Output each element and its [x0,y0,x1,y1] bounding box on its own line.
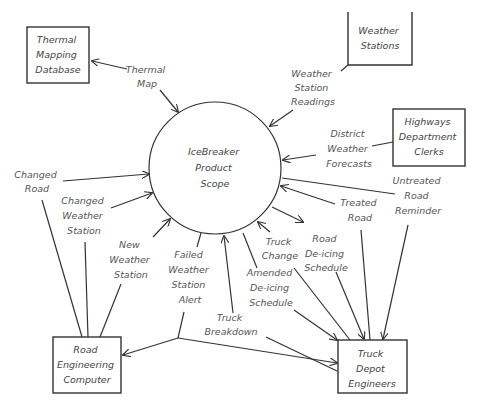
svg-text:Changed Road: Changed Road [14,169,59,194]
entity-thermal-mapping-database[interactable]: Thermal Mapping Database [27,27,89,83]
entity-weather-stations[interactable]: Weather Stations [348,12,412,65]
svg-text:Road De-icing Sche: Road De-icing Schedule [304,233,348,273]
svg-text:Failed Weather Sta: Failed Weather Station Alert [168,249,212,305]
svg-text:Thermal Mapping Da: Thermal Mapping Database [35,34,80,75]
flow-district-weather-forecasts[interactable]: District Weather Forecasts [283,128,393,169]
svg-text:Amended De-icing S: Amended De-icing Schedule [246,267,296,308]
svg-text:New Weather Statio: New Weather Station [109,239,153,280]
context-diagram: IceBreaker Product Scope Thermal Mapping… [0,0,479,406]
flow-weather-station-readings[interactable]: Weather Station Readings [270,65,348,126]
svg-text:Untreated Road Rem: Untreated Road Reminder [393,175,444,216]
svg-text:Truck Change: Truck Change [262,236,299,261]
product-scope[interactable]: IceBreaker Product Scope [149,102,281,234]
svg-text:Treated Road: Treated Road [340,197,379,223]
svg-text:Changed Weather St: Changed Weather Station [61,195,106,236]
svg-text:Truck Breakdown: Truck Breakdown [204,312,257,337]
flow-new-weather-station[interactable]: New Weather Station [100,219,170,337]
entity-road-engineering-computer[interactable]: Road Engineering Computer [53,337,121,393]
svg-text:District Weather F: District Weather Forecasts [326,128,372,169]
entity-truck-depot-engineers[interactable]: Truck Depot Engineers [338,340,407,393]
entity-highways-department-clerks[interactable]: Highways Department Clerks [393,109,465,166]
flow-changed-weather-station[interactable]: Changed Weather Station [61,193,152,337]
flow-thermal-map[interactable]: Thermal Map [92,61,178,112]
svg-text:Thermal Map: Thermal Map [126,64,168,89]
svg-text:Weather Station Re: Weather Station Readings [291,68,335,107]
